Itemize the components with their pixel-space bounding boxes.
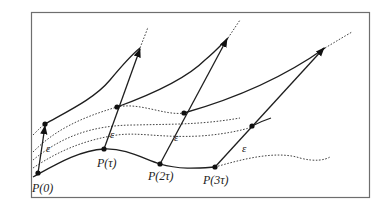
neighbour-trajectory-1	[33, 126, 255, 168]
evolved-trajectory-2-ext	[325, 32, 352, 48]
point-p1	[101, 146, 106, 151]
evolved-trajectory-3	[252, 118, 271, 126]
growth-arrow-2	[160, 39, 227, 164]
epsilon-vector-0	[38, 126, 45, 173]
neighbour-trajectory-3	[33, 106, 184, 152]
evolved-trajectory-1	[117, 38, 228, 107]
figure-frame	[32, 13, 370, 198]
label-p3: P(3τ)	[202, 173, 229, 187]
point-p2	[157, 161, 162, 166]
epsilon-label-1: ε	[110, 128, 115, 140]
label-p0: P(0)	[31, 181, 53, 195]
reference-trajectory-continuation	[215, 155, 330, 167]
growth-arrow-3	[215, 48, 324, 167]
label-p1: P(τ)	[96, 156, 117, 170]
perturbed-point-3	[249, 123, 254, 128]
perturbed-point-2	[181, 110, 186, 115]
epsilon-label-0: ε	[46, 142, 51, 154]
epsilon-label-3: ε	[242, 142, 247, 154]
perturbed-point-0	[42, 121, 47, 126]
neighbour-trajectory-2	[33, 118, 240, 160]
label-p2: P(2τ)	[147, 169, 174, 183]
perturbed-point-1	[114, 104, 119, 109]
evolved-trajectory-0	[45, 48, 140, 124]
epsilon-label-2: ε	[174, 131, 179, 143]
point-p3	[212, 164, 217, 169]
reference-trajectory	[33, 149, 215, 177]
diagram-canvas: ε ε ε ε P(0) P(τ) P(2τ) P(3τ)	[0, 0, 381, 208]
point-p0	[35, 170, 40, 175]
evolved-trajectory-0-ext	[140, 27, 148, 48]
evolved-trajectory-1-ext	[228, 20, 240, 38]
